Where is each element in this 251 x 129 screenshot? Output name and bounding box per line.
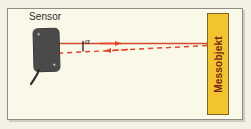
diagram-canvas: Sensor α Messobjekt — [0, 0, 251, 129]
messobjekt-label: Messobjekt — [213, 36, 224, 92]
angle-label: α — [85, 36, 90, 46]
messobjekt-bar: Messobjekt — [207, 13, 229, 115]
